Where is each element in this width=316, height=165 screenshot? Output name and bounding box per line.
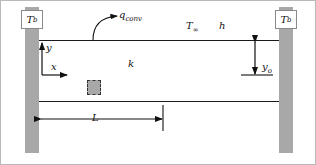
half-thickness-label: yo — [262, 61, 272, 75]
left-wall-temperature-subscript: b — [33, 16, 37, 24]
thermal-conductivity-label: k — [128, 58, 134, 69]
right-wall-temperature-subscript: b — [287, 16, 291, 24]
x-axis-label: x — [51, 61, 57, 72]
convection-arrow — [93, 16, 117, 40]
right-wall-temperature-symbol: T — [280, 14, 287, 25]
ambient-temperature-subscript: ∞ — [193, 26, 199, 34]
convection-heat-flux-label: qconv — [119, 9, 142, 23]
half-thickness-subscript: o — [268, 67, 272, 75]
ambient-temperature-label: T∞ — [186, 20, 199, 34]
length-label: L — [92, 112, 99, 123]
heat-transfer-diagram: Tb Tb qconv T∞ h k — [0, 0, 316, 165]
right-wall-temperature-label: Tb — [275, 10, 297, 29]
plate-bottom-surface — [39, 101, 279, 102]
convection-coefficient-label: h — [219, 20, 225, 31]
y-axis-label: y — [46, 42, 52, 53]
heat-flux-subscript: conv — [125, 15, 142, 23]
left-wall-temperature-label: Tb — [21, 10, 43, 29]
plate-top-surface — [39, 40, 279, 41]
annotation-overlay — [1, 1, 316, 165]
differential-control-volume — [87, 80, 101, 95]
left-wall-temperature-symbol: T — [26, 14, 33, 25]
ambient-temperature-symbol: T — [186, 20, 193, 31]
